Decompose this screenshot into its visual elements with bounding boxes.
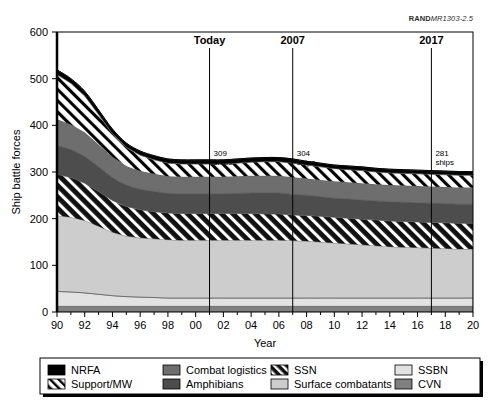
ship-count-value: 309	[214, 149, 228, 158]
legend-swatch	[163, 365, 180, 375]
x-tick-label: 14	[384, 319, 396, 331]
legend-item-combat-logistics: Combat logistics	[163, 364, 267, 376]
legend-label: CVN	[418, 378, 441, 390]
source-label-bold: RAND	[409, 14, 431, 23]
x-axis-title: Year	[254, 337, 277, 349]
source-label: RANDMR1303-2.5	[409, 14, 473, 23]
y-tick-label: 0	[42, 306, 48, 318]
y-tick-label: 300	[30, 166, 48, 178]
legend: NRFASupport/MWCombat logisticsAmphibians…	[40, 358, 483, 397]
legend-swatch	[271, 365, 288, 375]
ship-count-unit: ships	[435, 158, 454, 167]
marker-label-2017: 2017	[419, 34, 443, 46]
y-tick-label: 100	[30, 259, 48, 271]
x-tick-label: 08	[300, 319, 312, 331]
stacked-area-chart: 0100200300400500600 90929496980002040608…	[0, 0, 497, 417]
area-bands-group	[57, 70, 473, 312]
x-tick-label: 02	[217, 319, 229, 331]
ship-count-unit: ships	[214, 158, 233, 167]
x-tick-label: 10	[328, 319, 340, 331]
legend-item-support-mw: Support/MW	[48, 378, 133, 390]
x-tick-label: 92	[79, 319, 91, 331]
x-tick-label: 18	[439, 319, 451, 331]
y-tick-label: 600	[30, 26, 48, 38]
legend-label: Surface combatants	[294, 378, 392, 390]
x-tick-label: 90	[51, 319, 63, 331]
legend-item-cvn: CVN	[395, 378, 441, 390]
x-tick-label: 96	[134, 319, 146, 331]
ship-count-value: 304	[297, 149, 311, 158]
legend-label: NRFA	[71, 364, 101, 376]
legend-label: Support/MW	[71, 378, 133, 390]
legend-swatch	[271, 379, 288, 389]
y-tick-label: 500	[30, 73, 48, 85]
x-tick-label: 04	[245, 319, 257, 331]
x-tick-label: 20	[467, 319, 479, 331]
legend-label: SSBN	[418, 364, 448, 376]
x-tick-label: 00	[190, 319, 202, 331]
y-axis-ticks-group: 0100200300400500600	[30, 26, 57, 318]
legend-swatch	[395, 365, 412, 375]
legend-item-ssn: SSN	[271, 364, 317, 376]
legend-swatch	[48, 379, 65, 389]
legend-item-amphibians: Amphibians	[163, 378, 244, 390]
source-label-italic: MR1303-2.5	[431, 14, 473, 23]
legend-swatch	[395, 379, 412, 389]
marker-label-today: Today	[194, 34, 226, 46]
legend-label: SSN	[294, 364, 317, 376]
legend-item-nrfa: NRFA	[48, 364, 101, 376]
legend-item-ssbn: SSBN	[395, 364, 448, 376]
x-tick-label: 94	[106, 319, 118, 331]
legend-label: Combat logistics	[186, 364, 267, 376]
ship-count-unit: ships	[297, 158, 316, 167]
y-axis-title: Ship battle forces	[10, 129, 22, 214]
y-tick-label: 400	[30, 119, 48, 131]
x-tick-label: 98	[162, 319, 174, 331]
y-tick-label: 200	[30, 213, 48, 225]
x-tick-label: 12	[356, 319, 368, 331]
legend-swatch	[163, 379, 180, 389]
legend-label: Amphibians	[186, 378, 244, 390]
figure-container: RANDMR1303-2.5	[0, 0, 497, 417]
legend-swatch	[48, 365, 65, 375]
area-band-cvn	[57, 306, 473, 312]
x-tick-label: 16	[411, 319, 423, 331]
x-tick-label: 06	[273, 319, 285, 331]
x-axis-ticks-group: 90929496980002040608101214161820	[51, 312, 479, 331]
ship-count-value: 281	[435, 149, 449, 158]
marker-label-2007: 2007	[280, 34, 304, 46]
